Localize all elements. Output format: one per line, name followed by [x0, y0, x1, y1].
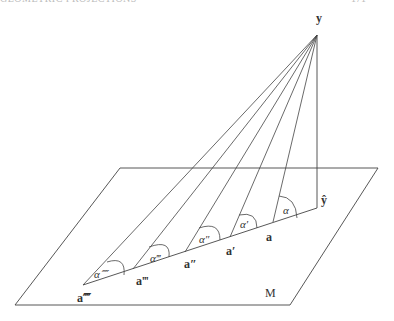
ray-a-prime [230, 35, 317, 237]
rays [83, 35, 317, 285]
point-label-a-triple-prime: a‴ [136, 274, 149, 288]
plane-label: M [265, 286, 276, 300]
angle-arc-alpha-quad-prime [107, 261, 124, 275]
baseline [83, 208, 317, 285]
ray-a-double-prime [185, 35, 317, 252]
angle-label-alpha: α [283, 204, 289, 216]
apex-label: y [316, 11, 322, 25]
point-label-a: a [266, 230, 272, 244]
angle-label-alpha-prime: α′ [240, 218, 249, 230]
angle-label-alpha-double-prime: α″ [199, 233, 210, 245]
projection-diagram: y ŷ M a a′ a″ a‴ a⁗ α α′ α″ α‴ α⁗ [0, 0, 394, 321]
point-label-a-prime: a′ [226, 244, 235, 258]
point-label-a-quad-prime: a⁗ [77, 291, 92, 305]
angle-label-alpha-quad-prime: α⁗ [94, 268, 110, 280]
angle-label-alpha-triple-prime: α‴ [150, 252, 162, 264]
ray-a-quad-prime [83, 35, 317, 285]
point-label-a-double-prime: a″ [184, 257, 197, 271]
projection-label: ŷ [321, 193, 327, 207]
